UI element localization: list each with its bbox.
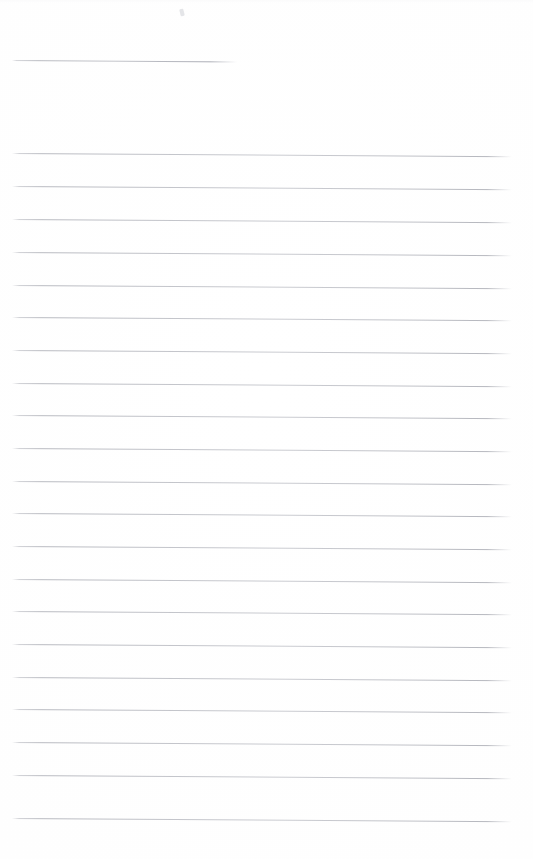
ruled-line [12, 153, 512, 157]
ruled-line [12, 285, 512, 289]
ruled-line [12, 383, 512, 387]
ruled-line [12, 709, 512, 713]
ruled-line [12, 252, 512, 256]
scanned-page [0, 0, 533, 859]
ruled-line [12, 350, 512, 354]
ruled-line [12, 818, 512, 822]
ruled-line [12, 775, 512, 779]
ruled-line [12, 677, 512, 681]
ruled-line [12, 611, 512, 615]
ruled-line [12, 481, 512, 485]
ruled-line [12, 60, 237, 62]
ruled-line [12, 644, 512, 648]
ruled-line [12, 317, 512, 321]
ruled-line [12, 448, 512, 452]
ruled-line [12, 186, 512, 190]
ruled-line [12, 546, 512, 550]
ruled-line [12, 742, 512, 746]
ruled-line [12, 219, 512, 223]
ruled-line [12, 513, 512, 517]
ruled-lines-layer [0, 0, 533, 859]
ruled-line [12, 579, 512, 583]
ruled-line [12, 415, 512, 419]
